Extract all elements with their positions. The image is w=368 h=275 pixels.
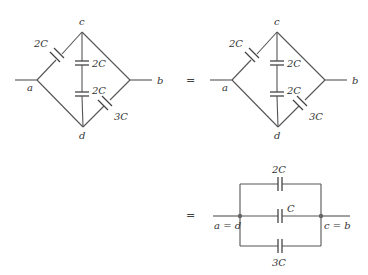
wire-a-d [37, 80, 83, 127]
capacitor-label-db: 3C [309, 111, 323, 122]
capacitor-plate [297, 96, 307, 106]
wire-c-d-3 [277, 96, 278, 127]
wire-a-c-2 [257, 32, 277, 54]
node-label-a-equals-d: a = d [214, 220, 241, 231]
circuit-diagram: c a b d 2C 2C 2C 3C = c a b d 2C 2C [0, 0, 368, 275]
capacitor-label-top: 2C [271, 164, 286, 175]
capacitor-label-cd-upper: 2C [91, 58, 106, 69]
capacitor-plate [293, 100, 303, 110]
node-label-d: d [274, 130, 280, 141]
node-label-b: b [157, 75, 163, 86]
left-bridge-network: c a b d 2C 2C 2C 3C [15, 16, 163, 141]
capacitor-label-ac: 2C [228, 38, 243, 49]
junction-node-right [319, 214, 323, 218]
node-label-b: b [352, 75, 358, 86]
capacitor-label-cd-lower: 2C [286, 85, 301, 96]
wire-d-b-2 [110, 80, 130, 100]
equals-sign: = [186, 74, 195, 87]
wire-a-c-1 [232, 60, 251, 80]
wire-a-c-1 [37, 60, 56, 80]
capacitor-label-middle: C [287, 203, 295, 214]
capacitor-label-cd-lower: 2C [91, 85, 106, 96]
node-label-c-equals-b: c = b [324, 220, 351, 231]
equals-sign: = [186, 209, 195, 222]
wire-c-b [82, 32, 130, 80]
wire-d-b-1 [83, 106, 104, 127]
reduced-parallel-network: 2C C 3C a = d c = b [213, 164, 351, 268]
capacitor-label-ac: 2C [33, 38, 48, 49]
wire-d-b-2 [305, 80, 325, 100]
wire-c-b [277, 32, 325, 80]
wire-c-d-3 [82, 96, 83, 127]
wire-d-b-1 [278, 106, 299, 127]
node-label-c: c [79, 16, 85, 27]
capacitor-label-cd-upper: 2C [286, 58, 301, 69]
node-label-a: a [27, 82, 33, 93]
capacitor-label-bottom: 3C [272, 257, 286, 268]
node-label-d: d [79, 130, 85, 141]
capacitor-label-db: 3C [114, 111, 128, 122]
node-label-c: c [274, 16, 280, 27]
right-bridge-network: c a b d 2C 2C 2C 3C [210, 16, 358, 141]
capacitor-plate [98, 100, 108, 110]
junction-node-left [238, 214, 242, 218]
capacitor-plate [102, 96, 112, 106]
wire-a-c-2 [62, 32, 82, 54]
node-label-a: a [222, 82, 228, 93]
wire-a-d [232, 80, 278, 127]
